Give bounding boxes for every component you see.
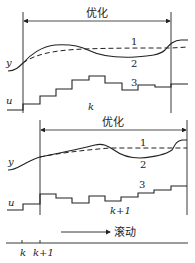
top-label-3: 3 (131, 77, 137, 88)
bottom-label-3: 3 (139, 179, 145, 190)
bottom-label-2: 2 (140, 159, 146, 170)
bottom-control-steps (7, 186, 187, 210)
top-panel: 优化 y 1 2 u 3 k (5, 6, 188, 113)
top-output-label: y (5, 57, 12, 68)
bottom-label-1: 1 (140, 137, 146, 148)
top-label-1: 1 (131, 36, 137, 47)
tick-label-k: k (20, 247, 26, 258)
bottom-time-label: k+1 (110, 205, 131, 216)
top-horizon-label: 优化 (86, 6, 108, 20)
bottom-predicted-curve (8, 140, 187, 170)
bottom-panel: 优化 y 1 2 u 3 k+1 (7, 115, 187, 216)
top-time-label: k (88, 101, 94, 112)
top-input-label: u (6, 95, 12, 106)
top-label-2: 2 (131, 58, 137, 69)
tick-label-k-plus-1: k+1 (33, 247, 54, 258)
time-axis: k k+1 (6, 240, 188, 258)
bottom-output-label: y (7, 156, 14, 167)
top-predicted-curve (8, 40, 188, 71)
top-control-steps (7, 76, 188, 110)
rolling-indicator: 滚动 (61, 225, 136, 239)
rolling-label: 滚动 (114, 225, 136, 239)
mpc-rolling-diagram: 优化 y 1 2 u 3 k 优化 y 1 2 u 3 k+1 滚动 (0, 0, 195, 263)
bottom-horizon-label: 优化 (102, 115, 124, 129)
bottom-input-label: u (8, 197, 14, 208)
